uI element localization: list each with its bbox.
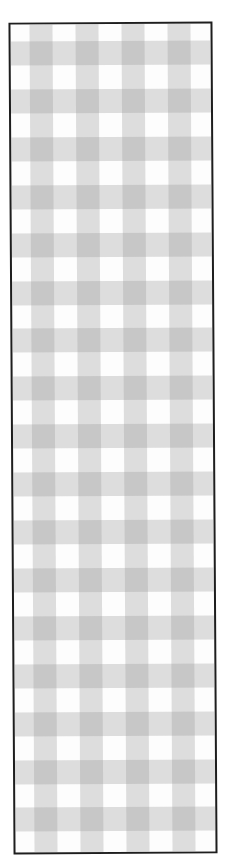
horizontal-stripe [12,280,212,305]
gingham-pattern-panel [8,21,217,854]
horizontal-stripe [12,327,212,352]
horizontal-stripe [13,375,213,400]
horizontal-stripe [13,471,213,496]
horizontal-stripe [14,567,214,592]
horizontal-stripe [15,711,215,736]
horizontal-stripe [14,663,214,688]
horizontal-stripe [14,615,214,640]
horizontal-stripe [15,759,215,784]
horizontal-stripe [11,136,211,161]
horizontal-stripe [12,232,212,257]
horizontal-stripe [15,806,215,831]
horizontal-stripe [13,423,213,448]
horizontal-stripe [11,40,211,65]
horizontal-stripe [14,519,214,544]
horizontal-stripe [11,88,211,113]
horizontal-stripe [11,184,211,209]
